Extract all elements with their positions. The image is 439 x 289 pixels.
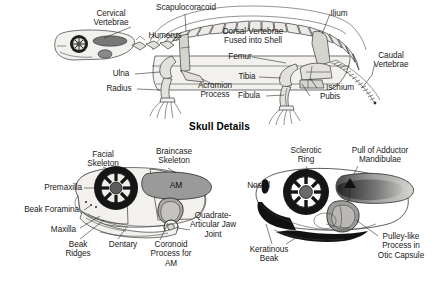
label-keratinous-beak: Keratinous Beak (236, 245, 302, 264)
label-humerus: Humerus (140, 31, 190, 40)
label-pulley-like-process: Pulley-like Process in Otic Capsule (365, 232, 437, 260)
label-braincase-skeleton: Braincase Skeleton (141, 147, 207, 166)
label-beak-foramina: Beak Foramina (3, 205, 79, 214)
label-tibia: Tibia (232, 72, 262, 81)
label-pull-of-adductor-mandibulae: Pull of Adductor Mandibulae (330, 146, 430, 165)
label-beak-ridges: Beak Ridges (54, 240, 102, 259)
label-ischium: Ischium (318, 83, 362, 92)
label-scapulocoracoid: Scapulocoracoid (134, 3, 238, 12)
label-ilium: Ilium (316, 9, 362, 18)
label-caudal-vertebrae: Caudal Vertebrae (354, 51, 428, 70)
label-coronoid-process: Coronoid Process for AM (140, 240, 202, 268)
page-title: Skull Details (0, 121, 439, 132)
label-radius: Radius (100, 84, 138, 93)
label-acromion-process: Acromion Process (185, 81, 245, 100)
label-femur: Femur (222, 52, 258, 61)
label-sclerotic-ring: Sclerotic Ring (277, 146, 335, 165)
label-nostril: Nostril (228, 181, 270, 190)
label-maxilla: Maxilla (26, 225, 76, 234)
label-dorsal-vertebrae: Dorsal Vertebrae Fused into Shell (201, 27, 305, 46)
label-pubis: Pubis (311, 92, 349, 101)
anatomical-figure: Cervical Vertebrae Scapulocoracoid Humer… (0, 0, 439, 289)
label-facial-skeleton: Facial Skeleton (75, 150, 131, 169)
label-premaxilla: Premaxilla (24, 183, 82, 192)
label-ulna: Ulna (106, 69, 136, 78)
